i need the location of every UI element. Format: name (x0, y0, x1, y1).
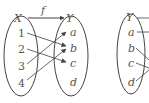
domain-element-3: 3 (18, 60, 25, 73)
domain-element-4: 4 (18, 77, 25, 90)
codomain-element-a: a (70, 26, 77, 39)
codomain-element-c: c (70, 57, 76, 70)
mapping-arrow-3-a (27, 32, 66, 64)
set-y2-element-c: c (128, 57, 134, 70)
y2-line-c (136, 63, 149, 68)
mapping-arrow-2-c (27, 49, 66, 62)
codomain-element-d: d (70, 76, 77, 89)
set-y2-element-d: d (128, 76, 135, 89)
function-label: f (40, 4, 47, 17)
mapping-arrow-4-b (27, 49, 66, 80)
y2-line-d (136, 70, 149, 81)
set-y2-element-a: a (128, 26, 135, 39)
domain-element-1: 1 (18, 27, 25, 40)
set-y2-element-b: b (128, 42, 135, 55)
mapping-diagram: f X Y 1 2 3 4 a b c d Y a b c d (0, 0, 149, 103)
domain-element-2: 2 (18, 43, 25, 56)
set-y2-label: Y (126, 11, 135, 24)
codomain-element-b: b (70, 42, 77, 55)
y2-line-b (136, 48, 149, 60)
set-y-label: Y (66, 12, 75, 25)
mapping-arrow-1-b (27, 33, 66, 46)
set-x-label: X (13, 12, 23, 25)
